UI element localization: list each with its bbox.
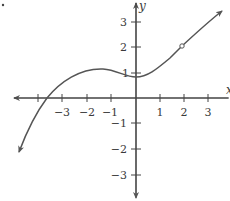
y-tick-label: −2 (111, 143, 127, 156)
x-tick-label: 2 (181, 106, 188, 119)
function-curve-left (19, 98, 47, 152)
y-tick-label: −1 (111, 117, 127, 130)
stray-dot (2, 4, 4, 6)
function-curve (47, 11, 222, 98)
y-axis-label: y (138, 0, 146, 13)
x-tick-label: −2 (79, 106, 95, 119)
x-tick-label: −3 (54, 106, 70, 119)
open-point (180, 44, 184, 48)
x-tick-label: 3 (205, 106, 212, 119)
y-tick-label: 2 (120, 41, 127, 54)
x-axis-label: x (226, 83, 230, 97)
function-graph: −3 −2 −1 1 2 3 3 2 1 −1 −2 −3 y x (0, 0, 230, 201)
y-tick-label: −3 (111, 169, 127, 182)
y-tick-label: 3 (120, 16, 127, 29)
x-tick-label: 1 (157, 106, 164, 119)
